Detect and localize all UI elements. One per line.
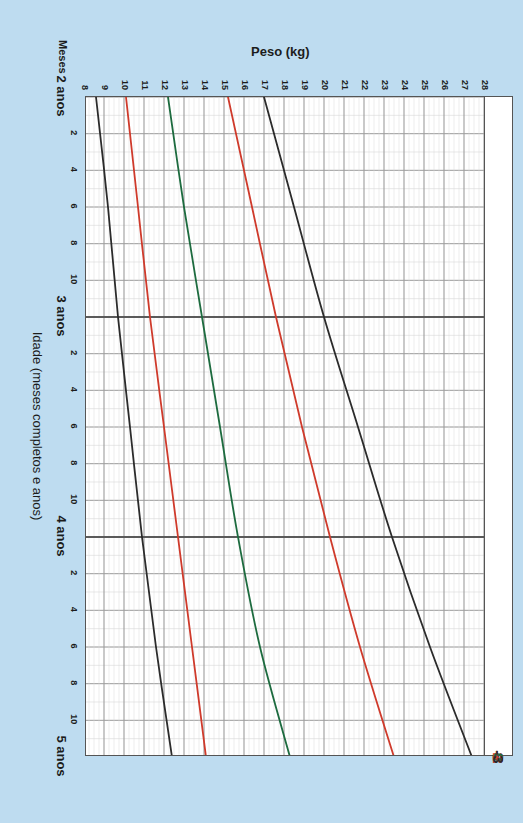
x-year-label-4-anos: 4 anos [54,515,69,556]
y-axis-title: Peso (kg) [251,44,310,59]
x-month-tick-44: 8 [69,460,79,465]
y-tick-11: 11 [140,64,150,90]
zscore-label-band: 320-2-3 [485,96,513,756]
y-tick-27: 27 [460,64,470,90]
y-tick-23: 23 [380,64,390,90]
x-month-tick-30: 6 [69,203,79,208]
x-month-tick-46: 10 [69,494,79,504]
y-tick-22: 22 [360,64,370,90]
x-month-tick-28: 4 [69,167,79,172]
x-axis-title: Idade (meses completos e anos) [30,332,45,521]
chart-plot-area [85,96,485,756]
x-month-tick-26: 2 [69,130,79,135]
x-year-label-3-anos: 3 anos [54,295,69,336]
y-tick-19: 19 [300,64,310,90]
y-tick-9: 9 [100,64,110,90]
x-month-tick-52: 4 [69,607,79,612]
y-tick-26: 26 [440,64,450,90]
y-tick-17: 17 [260,64,270,90]
y-tick-13: 13 [180,64,190,90]
y-tick-18: 18 [280,64,290,90]
x-month-tick-40: 4 [69,387,79,392]
y-tick-24: 24 [400,64,410,90]
x-year-label-5-anos: 5 anos [54,735,69,776]
x-month-tick-42: 6 [69,423,79,428]
y-tick-10: 10 [120,64,130,90]
chart-plot-inner [86,97,484,755]
growth-chart-page: 320-2-3 28272625242322212019181716151413… [0,0,523,823]
x-month-tick-54: 6 [69,643,79,648]
x-month-tick-50: 2 [69,570,79,575]
chart-zscore-curves [86,97,484,755]
x-month-tick-58: 10 [69,714,79,724]
y-tick-15: 15 [220,64,230,90]
screenshot-viewport: 320-2-3 28272625242322212019181716151413… [0,0,523,823]
x-month-tick-34: 10 [69,274,79,284]
y-tick-16: 16 [240,64,250,90]
y-tick-20: 20 [320,64,330,90]
x-month-tick-32: 8 [69,240,79,245]
y-tick-8: 8 [80,64,90,90]
y-tick-12: 12 [160,64,170,90]
y-tick-21: 21 [340,64,350,90]
zscore-label--3: -3 [486,750,510,763]
y-tick-14: 14 [200,64,210,90]
y-tick-28: 28 [480,64,490,90]
y-tick-25: 25 [420,64,430,90]
x-month-tick-38: 2 [69,350,79,355]
months-axis-label: Meses [57,40,69,74]
x-year-label-2-anos: 2 anos [54,75,69,116]
x-month-tick-56: 8 [69,680,79,685]
